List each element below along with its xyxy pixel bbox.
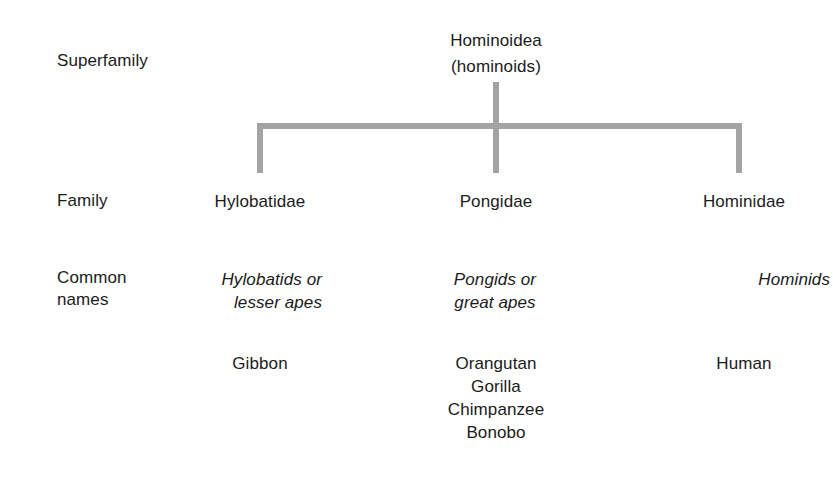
node-family-hylobatidae: Hylobatidae <box>170 190 350 213</box>
common-names-pongidae: Pongids or great apes <box>400 268 590 314</box>
rank-label-family: Family <box>57 190 108 212</box>
rank-label-superfamily: Superfamily <box>57 50 148 72</box>
species-list-hylobatidae: Gibbon <box>170 352 350 375</box>
connector-horizontal-bar <box>257 123 742 129</box>
connector-drop-hominidae <box>736 129 742 173</box>
species-list-hominidae: Human <box>654 352 833 375</box>
node-hominoidea: Hominoidea (hominoids) <box>386 28 606 80</box>
common-names-hylobatidae: Hylobatids or lesser apes <box>150 268 322 314</box>
connector-stem-from-root <box>493 82 499 129</box>
taxonomy-diagram: Superfamily Family Common names Hominoid… <box>0 0 833 482</box>
common-names-hominidae: Hominids <box>660 268 830 291</box>
species-list-pongidae: Orangutan Gorilla Chimpanzee Bonobo <box>406 352 586 444</box>
rank-label-common-names: Common names <box>57 267 127 311</box>
connector-drop-hylobatidae <box>257 129 263 173</box>
node-family-pongidae: Pongidae <box>406 190 586 213</box>
node-family-hominidae: Hominidae <box>654 190 833 213</box>
connector-drop-pongidae <box>493 129 499 173</box>
